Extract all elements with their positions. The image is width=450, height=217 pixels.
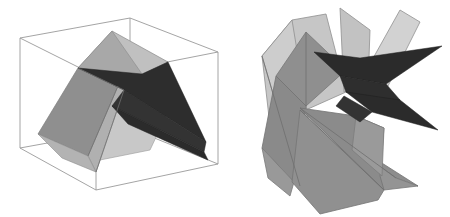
figure-root bbox=[0, 0, 450, 217]
figure-canvas bbox=[0, 0, 450, 217]
